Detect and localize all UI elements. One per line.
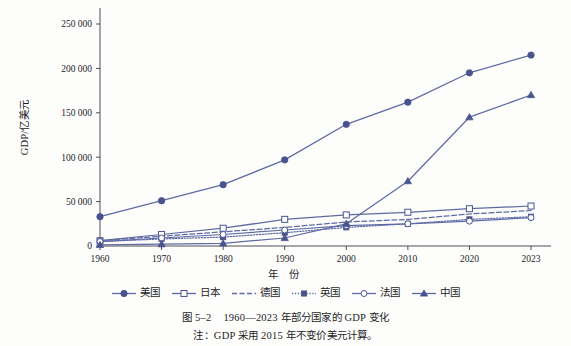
figure-note: 注：GDP 采用 2015 年不变价美元计算。 [0,327,571,342]
legend-item-英国[interactable]: 英国 [291,288,340,299]
y-axis-label-text: GDP/亿美元 [16,100,31,155]
data-point-marker [361,291,367,297]
data-point-marker [220,182,226,188]
legend-symbol-filled-circle-icon [111,288,137,299]
series-line [100,211,531,241]
data-point-marker [528,52,534,58]
series-line [100,55,531,217]
data-point-marker [528,203,534,209]
data-point-marker [121,290,127,296]
data-point-marker [405,209,411,215]
data-point-marker [528,215,534,221]
y-tick-label: 100 000 [61,153,92,163]
legend-label: 美国 [140,288,160,299]
legend-item-德国[interactable]: 德国 [231,288,280,299]
legend-item-日本[interactable]: 日本 [171,288,220,299]
y-tick-label: 200 000 [61,64,92,74]
data-point-marker [466,206,472,212]
data-point-marker [220,225,226,231]
data-point-marker [181,291,187,297]
data-point-marker [97,213,103,219]
legend-symbol-filled-square-icon [291,288,317,299]
data-point-marker [158,198,164,204]
legend-item-中国[interactable]: 中国 [411,288,460,299]
x-axis-label-text: 年 份 [268,269,303,280]
legend-symbol-none-icon [231,288,257,299]
x-tick-label: 2023 [522,254,541,264]
x-tick-label: 1980 [214,254,233,264]
data-point-marker [301,291,306,296]
x-tick-label: 2010 [398,254,417,264]
y-tick-label: 50 000 [66,197,92,207]
figure-container: 050 000100 000150 000200 000250 00019601… [0,0,571,346]
legend-label: 法国 [380,288,400,299]
chart-legend: 美国日本德国英国法国中国 [0,288,571,299]
data-point-marker [405,99,411,105]
data-point-marker [282,216,288,222]
x-tick-label: 1970 [152,254,171,264]
legend-symbol-open-square-icon [171,288,197,299]
data-point-marker [405,221,411,227]
figure-note-text: 注：GDP 采用 2015 年不变价美元计算。 [193,330,377,341]
x-axis-label: 年 份 [0,266,571,281]
legend-label: 德国 [260,288,280,299]
legend-label: 英国 [320,288,340,299]
legend-symbol-open-circle-icon [351,288,377,299]
x-tick-label: 2020 [460,254,479,264]
data-point-marker [527,91,534,97]
y-axis-label: GDP/亿美元 [16,0,31,100]
caption-text: 1960—2023 年部分国家的 GDP 变化 [223,312,389,323]
data-point-marker [343,121,349,127]
x-tick-label: 1960 [91,254,110,264]
data-point-marker [466,70,472,76]
x-tick-label: 2000 [337,254,356,264]
data-point-marker [343,212,349,218]
legend-label: 中国 [440,288,460,299]
series-美国 [97,52,534,220]
caption-number: 图 5–2 [182,312,211,323]
legend-item-法国[interactable]: 法国 [351,288,400,299]
y-tick-label: 0 [87,241,92,251]
x-tick-label: 1990 [275,254,294,264]
y-tick-label: 250 000 [61,19,92,29]
data-point-marker [282,157,288,163]
legend-symbol-filled-triangle-icon [411,288,437,299]
legend-item-美国[interactable]: 美国 [111,288,160,299]
data-point-marker [282,227,288,233]
plot-area: 050 000100 000150 000200 000250 00019601… [0,0,571,290]
line-chart: 050 000100 000150 000200 000250 00019601… [0,0,571,290]
y-tick-label: 150 000 [61,108,92,118]
figure-caption: 图 5–21960—2023 年部分国家的 GDP 变化 [0,309,571,324]
series-德国 [100,211,531,241]
data-point-marker [466,218,472,224]
data-point-marker [220,231,226,237]
legend-label: 日本 [200,288,220,299]
